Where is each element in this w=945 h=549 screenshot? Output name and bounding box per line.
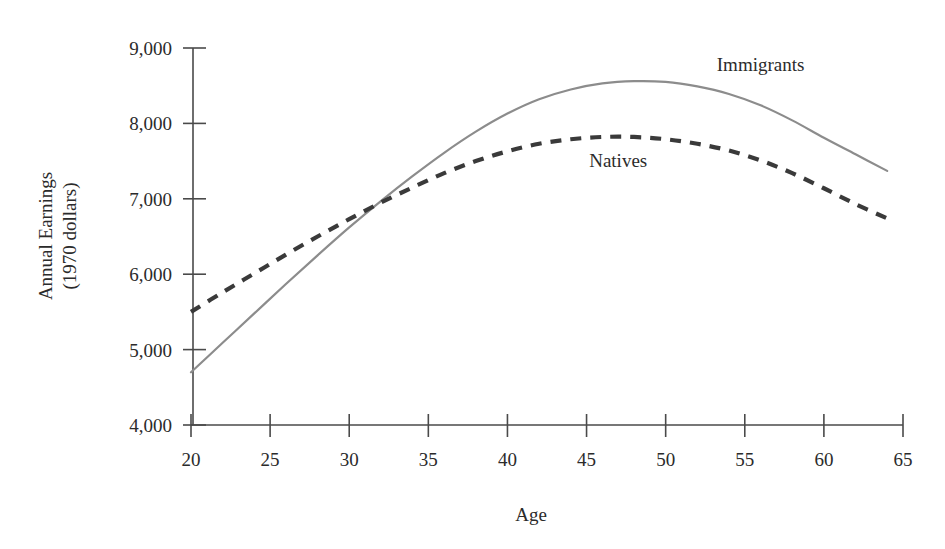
y-axis-title: Annual Earnings (1970 dollars) (35, 172, 81, 300)
y-tick-label: 4,000 (129, 415, 172, 436)
y-tick-label: 5,000 (129, 340, 172, 361)
x-tick-label: 30 (340, 449, 359, 470)
y-axis-tick-labels: 4,0005,0006,0007,0008,0009,000 (129, 38, 172, 436)
chart-canvas: 4,0005,0006,0007,0008,0009,000 202530354… (0, 0, 945, 549)
x-tick-label: 55 (735, 449, 754, 470)
x-axis-title: Age (515, 504, 547, 525)
y-tick-label: 6,000 (129, 264, 172, 285)
series-annotations: ImmigrantsNatives (589, 54, 804, 172)
y-axis-title-line1: Annual Earnings (35, 172, 56, 300)
y-tick-label: 9,000 (129, 38, 172, 59)
x-tick-label: 35 (419, 449, 438, 470)
y-tick-label: 8,000 (129, 113, 172, 134)
x-tick-label: 40 (498, 449, 517, 470)
series-line-natives (191, 137, 887, 312)
series-line-immigrants (191, 81, 887, 372)
series-label-natives: Natives (589, 150, 647, 171)
x-tick-label: 45 (577, 449, 596, 470)
y-tick-label: 7,000 (129, 189, 172, 210)
x-tick-label: 50 (656, 449, 675, 470)
chart-figure: 4,0005,0006,0007,0008,0009,000 202530354… (0, 0, 945, 549)
x-tick-label: 25 (261, 449, 280, 470)
x-axis-tick-labels: 20253035404550556065 (182, 449, 913, 470)
y-axis-title-line2: (1970 dollars) (59, 182, 81, 289)
x-tick-label: 60 (814, 449, 833, 470)
x-tick-label: 65 (894, 449, 913, 470)
series-label-immigrants: Immigrants (717, 54, 805, 75)
x-tick-label: 20 (182, 449, 201, 470)
data-series-group (191, 81, 887, 372)
